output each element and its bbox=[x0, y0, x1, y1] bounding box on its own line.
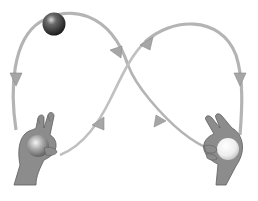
arrow-left-down bbox=[10, 73, 22, 86]
dark-ball bbox=[43, 13, 66, 36]
diagram-canvas bbox=[0, 0, 258, 201]
juggling-diagram bbox=[0, 0, 258, 201]
arrow-top-left-loop bbox=[110, 46, 122, 58]
arrow-right-down bbox=[234, 73, 246, 86]
direction-arrows bbox=[10, 37, 246, 130]
white-ball bbox=[217, 138, 239, 160]
